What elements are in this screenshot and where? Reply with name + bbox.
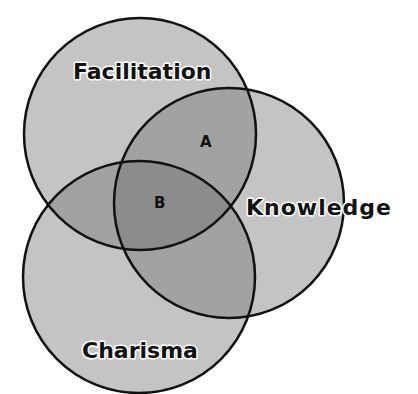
region-label-b: B [154,194,165,212]
label-knowledge: Knowledge [246,195,392,220]
label-charisma: Charisma [82,338,198,363]
label-facilitation: Facilitation [73,59,211,84]
venn-diagram: Facilitation Knowledge Charisma A B [0,0,418,394]
region-label-a: A [200,133,212,151]
